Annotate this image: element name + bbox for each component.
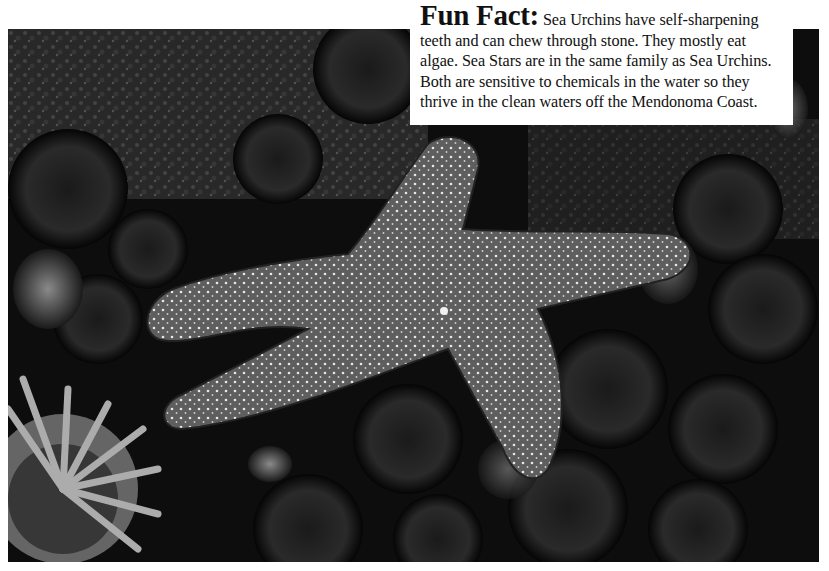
fun-fact-box: Fun Fact: Sea Urchins have self-sharpeni… xyxy=(410,0,793,125)
anemone xyxy=(8,379,158,562)
fun-fact-text: Fun Fact: Sea Urchins have self-sharpeni… xyxy=(420,5,785,113)
fun-fact-heading: Fun Fact: xyxy=(420,0,539,31)
